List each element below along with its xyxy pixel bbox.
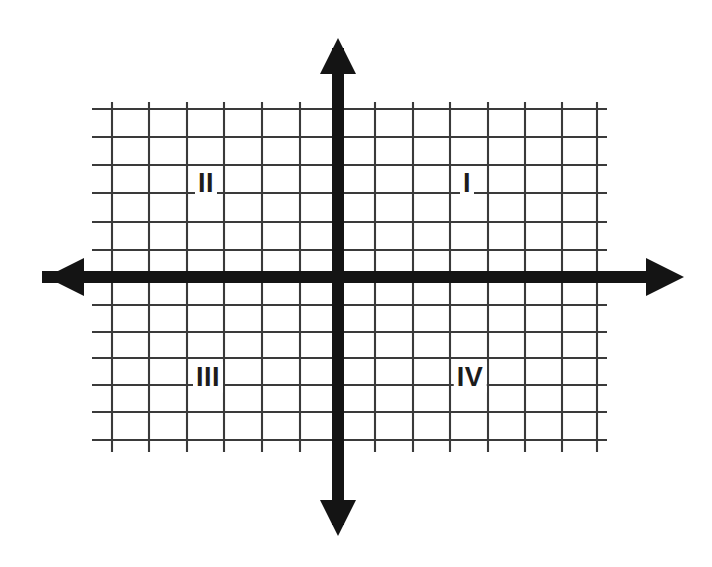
quadrant-four-label: IV (454, 362, 487, 393)
quadrant-three-label: III (193, 362, 223, 393)
coordinate-plane-graphic (0, 0, 712, 567)
coordinate-plane-figure: I II III IV (0, 0, 712, 567)
quadrant-two-label: II (195, 168, 217, 199)
quadrant-one-label: I (460, 168, 474, 199)
canvas-background (0, 0, 712, 567)
x-axis-line (42, 271, 670, 283)
y-axis-line (332, 48, 344, 525)
